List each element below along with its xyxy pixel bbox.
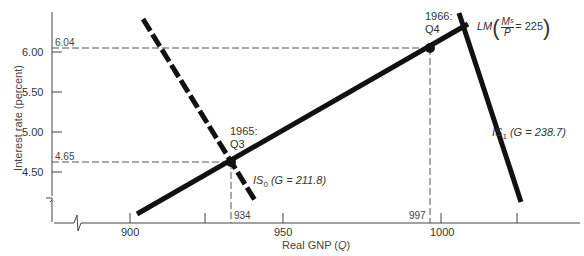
y-axis-break	[46, 198, 52, 222]
x-axis-label-suffix: )	[347, 239, 351, 251]
annotation-1966-q4-quarter: Q4	[425, 23, 453, 36]
x-axis-label-prefix: Real GNP (	[282, 239, 338, 251]
is0-label-value: (G = 211.8)	[268, 174, 326, 186]
is0-label: IS0 (G = 211.8)	[253, 174, 326, 191]
annotation-1966-q4: 1966: Q4	[425, 10, 453, 36]
lm-label-value: = 225	[515, 20, 543, 32]
is1-label-value: (G = 238.7)	[507, 126, 566, 138]
lm-label-fraction: MˢP	[501, 17, 515, 38]
is0-curve	[143, 19, 256, 202]
point-1966-q4	[425, 43, 435, 53]
x-axis-label: Real GNP (Q)	[282, 239, 350, 251]
ref-label-997: 997	[409, 210, 426, 222]
y-tick-label-5.50: 5.50	[22, 86, 43, 98]
is1-curve	[459, 13, 521, 202]
is1-label-name: IS	[492, 126, 502, 138]
is0-label-name: IS	[253, 174, 263, 186]
ref-label-6.04: 6.04	[55, 37, 74, 49]
annotation-1966-q4-year: 1966:	[425, 10, 453, 23]
x-tick-label-950: 950	[274, 226, 292, 238]
y-tick-label-6.00: 6.00	[22, 46, 43, 58]
y-axis-label: Interest rate (percent)	[12, 58, 24, 178]
x-tick-label-1000: 1000	[430, 226, 454, 238]
annotation-1965-q3-year: 1965:	[230, 125, 258, 138]
is1-label: IS1 (G = 238.7)	[492, 126, 566, 143]
x-axis-label-var: Q	[338, 239, 347, 251]
lm-label-name: LM	[477, 20, 492, 32]
lm-label: LM(MˢP= 225)	[477, 17, 550, 38]
point-1965-q3	[226, 157, 236, 167]
y-tick-label-4.50: 4.50	[22, 166, 43, 178]
x-tick-label-900: 900	[121, 226, 139, 238]
annotation-1965-q3: 1965: Q3	[230, 125, 258, 151]
ref-label-4.65: 4.65	[55, 151, 74, 163]
y-tick-label-5.00: 5.00	[22, 126, 43, 138]
x-axis-break	[54, 215, 81, 231]
annotation-1965-q3-quarter: Q3	[230, 138, 258, 151]
lm-label-denominator: P	[501, 28, 515, 38]
ref-label-934: 934	[234, 210, 251, 222]
